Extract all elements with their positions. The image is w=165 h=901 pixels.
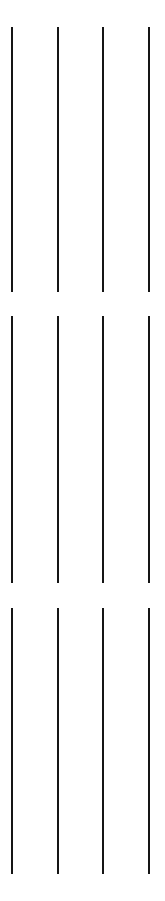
- rule-segment-2-2: [57, 316, 59, 583]
- vertical-rule-1: [11, 0, 13, 901]
- rule-segment-3-2: [102, 316, 104, 583]
- vertical-rule-3: [102, 0, 104, 901]
- rule-segment-1-1: [11, 27, 13, 292]
- vertical-rule-2: [57, 0, 59, 901]
- rule-segment-4-1: [148, 27, 150, 292]
- figure-canvas: [0, 0, 165, 901]
- rule-segment-1-2: [11, 316, 13, 583]
- vertical-rule-4: [148, 0, 150, 901]
- rule-segment-2-3: [57, 608, 59, 874]
- rule-segment-3-1: [102, 27, 104, 292]
- rule-segment-2-1: [57, 27, 59, 292]
- rule-segment-1-3: [11, 608, 13, 874]
- rule-segment-3-3: [102, 608, 104, 874]
- rule-segment-4-2: [148, 316, 150, 583]
- rule-segment-4-3: [148, 608, 150, 874]
